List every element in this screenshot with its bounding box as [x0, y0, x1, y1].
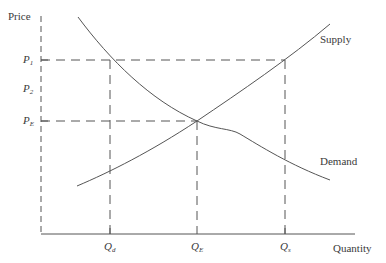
p1-label: P1	[23, 53, 33, 67]
x-axis-label: Quantity	[333, 242, 372, 254]
y-axis-label: Price	[8, 10, 31, 22]
qs-label: Qs	[280, 240, 291, 254]
qe-label: QE	[191, 240, 203, 254]
supply-curve	[77, 24, 330, 186]
pe-label: PE	[23, 114, 34, 128]
qd-label: Qd	[104, 240, 115, 254]
demand-label: Demand	[320, 155, 357, 167]
supply-label: Supply	[320, 33, 351, 45]
p2-label: P2	[23, 82, 33, 96]
demand-curve	[78, 17, 330, 180]
